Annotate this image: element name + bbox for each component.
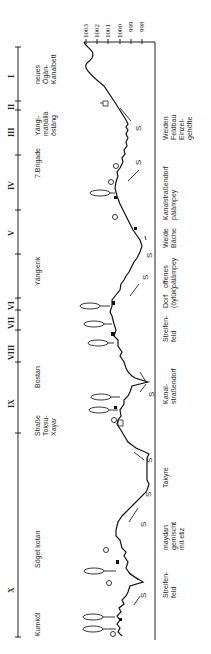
flow-marker-s: S <box>140 522 148 527</box>
landuse-label: maydan gemischt mit etiz <box>162 522 186 550</box>
place-label: Yängi- mäḥällä östäng <box>34 111 58 136</box>
landuse-label: Weide Bäche <box>162 228 178 248</box>
place-label: Straße Toḳsu- Xayar <box>34 415 58 436</box>
elevation-label: 1001 <box>104 24 112 38</box>
cross-section-diagram: S S S S S S S S S 1003 1002 1001 1000 99… <box>0 0 211 654</box>
zone-numeral: IV <box>7 181 16 190</box>
flow-marker-s: S <box>142 275 150 280</box>
place-label: Söget ḳotan <box>34 531 42 568</box>
building-outline-icons <box>100 101 123 426</box>
profile-graphics <box>0 0 211 654</box>
landuse-label: Streifen- feld <box>162 316 178 342</box>
flow-marker-s: S <box>140 593 148 598</box>
elevation-label: 1000 <box>116 24 124 38</box>
elevation-label: 1003 <box>82 24 90 38</box>
landuse-label: offenes pälämpey <box>162 258 178 288</box>
zone-numeral: II <box>7 104 16 110</box>
flow-marker-s: S <box>148 392 156 397</box>
place-label: neues Ögän- Kanalbett <box>34 54 58 84</box>
zone-numeral: X <box>7 587 16 593</box>
flow-marker-s: S <box>135 126 143 131</box>
frame-lines <box>84 39 155 640</box>
terrain-profile-line <box>84 42 149 636</box>
elevation-label: 1002 <box>93 24 101 38</box>
landuse-label: Streifen- feld <box>162 572 178 598</box>
tree-icons <box>80 190 120 632</box>
place-label: Yängierik <box>34 257 42 286</box>
place-label: Bostan <box>34 366 42 388</box>
zone-numeral: III <box>7 128 16 137</box>
zone-numeral: VII <box>7 317 16 329</box>
house-icons <box>111 196 137 621</box>
landuse-label: Kanal- straßendorf <box>162 368 178 404</box>
flow-arrows <box>120 108 146 605</box>
flow-marker-s: S <box>135 160 143 165</box>
flow-marker-s: S <box>146 253 154 258</box>
zone-numeral: I <box>7 75 16 78</box>
place-label: Kumköl <box>34 613 42 636</box>
landuse-label: Kanalstraßendorf pälämpey <box>162 166 178 220</box>
zone-numeral: VIII <box>7 345 16 360</box>
flow-marker-s: S <box>145 492 153 497</box>
landuse-label: Takyre <box>162 467 170 488</box>
place-label: 7.Brigade <box>34 148 42 178</box>
elevation-label: 998 <box>138 22 146 33</box>
zone-numeral: IX <box>7 399 16 408</box>
elevation-label: 999 <box>127 22 135 33</box>
zone-numeral: VI <box>7 301 16 310</box>
landuse-label: Weiden Feldbau Einzel- gehöfte <box>162 115 194 140</box>
flow-marker-s: S <box>146 458 154 463</box>
landuse-label: Dorf (öylük) <box>162 287 178 308</box>
zone-numeral: V <box>7 230 16 236</box>
